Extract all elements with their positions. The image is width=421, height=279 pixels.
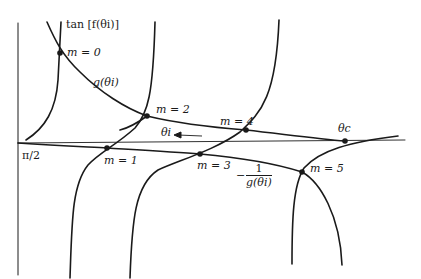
intersection-m5: [299, 169, 305, 175]
direction-arrow: [178, 135, 202, 136]
label-m0: m = 0: [67, 47, 101, 58]
label-m2: m = 2: [156, 104, 190, 115]
label-m4: m = 4: [220, 116, 254, 127]
theta-i-label: θi: [161, 127, 171, 138]
theta-c-label: θc: [338, 123, 351, 134]
fraction-numerator: 1: [246, 163, 272, 176]
tan-branch-4: [292, 136, 398, 264]
y-axis-label: tan [f(θi)]: [66, 19, 119, 30]
intersection-m3: [197, 151, 203, 157]
tan-branch-0-lower: [120, 116, 147, 130]
fraction-denominator: g(θi): [246, 176, 272, 188]
g-curve-label: g(θi): [93, 77, 119, 88]
intersection-m0: [57, 50, 63, 56]
label-m1: m = 1: [104, 155, 138, 166]
tan-branch-3: [130, 20, 279, 278]
label-m3: m = 3: [197, 160, 231, 171]
neg-inv-g-label: 1 g(θi): [246, 163, 272, 188]
origin-label: π/2: [22, 150, 40, 161]
diagram: tan [f(θi)] m = 0 g(θi) m = 2 m = 4 θi θ…: [0, 0, 421, 279]
arrowhead-icon: [174, 132, 181, 138]
intersection-m2: [144, 113, 150, 119]
label-m5: m = 5: [310, 163, 344, 174]
intersection-m1: [104, 145, 110, 151]
neg-inv-g-sign: −: [236, 170, 245, 181]
theta-c-point: [342, 138, 348, 144]
diagram-plot: [0, 0, 421, 279]
g-curve: [47, 22, 345, 141]
intersection-m4: [243, 127, 249, 133]
